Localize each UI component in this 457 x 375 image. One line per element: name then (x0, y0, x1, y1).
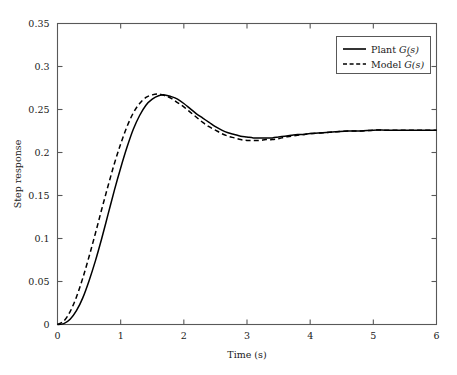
x-tick-label: 4 (307, 330, 313, 341)
y-tick-label: 0.1 (34, 233, 49, 244)
y-tick-label: 0 (43, 319, 49, 330)
x-tick-label: 1 (118, 330, 124, 341)
figure-container: 0123456 00.050.10.150.20.250.30.35 Time … (0, 0, 457, 375)
x-tick-label: 0 (54, 330, 60, 341)
legend-label-model: Model G(s) (371, 59, 424, 70)
y-tick-label: 0.05 (28, 276, 49, 287)
y-tick-label: 0.2 (34, 147, 49, 158)
y-tick-label: 0.35 (28, 18, 49, 29)
x-axis-title: Time (s) (227, 349, 266, 360)
step-response-chart: 0123456 00.050.10.150.20.250.30.35 Time … (0, 0, 457, 375)
y-tick-label: 0.25 (28, 104, 49, 115)
y-axis-title: Step response (12, 139, 23, 208)
x-tick-label: 2 (181, 330, 187, 341)
legend: Plant G(s) Model G(s) ^ (337, 37, 431, 74)
legend-hat-accent-model: ^ (405, 52, 413, 63)
y-tick-label: 0.3 (34, 61, 49, 72)
x-tick-label: 6 (433, 330, 439, 341)
x-tick-label: 3 (244, 330, 250, 341)
y-tick-label: 0.15 (28, 190, 49, 201)
x-tick-label: 5 (370, 330, 376, 341)
